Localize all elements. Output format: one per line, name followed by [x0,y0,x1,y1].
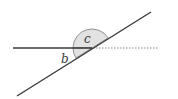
transversal-line [17,12,151,96]
angle-diagram: c b [0,0,178,99]
angle-b-sector [73,48,92,58]
angle-label-c: c [84,32,91,46]
angle-label-b: b [61,52,69,66]
